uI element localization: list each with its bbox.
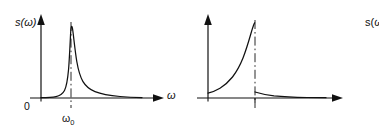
right-y-axis-label-base: s(ω [365,16,379,28]
left-peak-tick-subscript: 0 [70,118,74,127]
right-curve-tail-branch [255,92,326,98]
right-y-axis-label: s(ωe) [365,17,379,28]
left-curve-resonance [41,26,142,97]
left-peak-tick-label: ω0 [62,113,74,124]
left-peak-tick-base: ω [62,112,70,124]
chart-panel-right: s(ωe) ωe 0 0.25 g/v [189,0,379,136]
right-curve-rising-branch [208,23,255,93]
figure-container: s(ω) ω 0 ω0 [0,0,379,136]
left-y-axis-label: s(ω) [15,17,36,28]
right-y-axis [204,14,212,98]
left-origin-label: 0 [24,101,30,112]
left-y-axis [37,14,45,98]
left-x-axis-label: ω [167,90,176,101]
chart-panel-left: s(ω) ω 0 ω0 [0,0,190,136]
left-x-axis [30,94,164,101]
right-plot-svg [189,0,379,136]
